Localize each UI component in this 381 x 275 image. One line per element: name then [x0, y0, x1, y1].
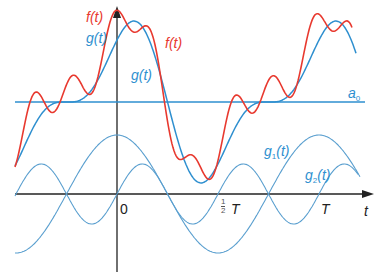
g1-label: g1(t) — [264, 144, 289, 161]
f-axis-label: f(t) — [86, 10, 103, 24]
f-curve-label: f(t) — [165, 36, 182, 50]
period-label: T — [321, 202, 330, 216]
f-curve — [15, 10, 352, 179]
origin-label: 0 — [120, 202, 128, 216]
g2-label: g2(t) — [305, 168, 330, 185]
fourier-diagram: f(t) g(t) f(t) g(t) a0 g1(t) g2(t) 0 12 … — [0, 0, 381, 275]
t-axis-arrow-icon — [362, 190, 374, 198]
g-curve-label: g(t) — [131, 68, 152, 82]
half-period-label: T — [231, 202, 240, 216]
g-axis-label: g(t) — [86, 31, 107, 45]
diagram-canvas — [0, 0, 381, 275]
a0-label: a0 — [348, 86, 360, 103]
t-axis-label: t — [364, 204, 368, 218]
half-period-fraction: 12 — [221, 198, 225, 215]
